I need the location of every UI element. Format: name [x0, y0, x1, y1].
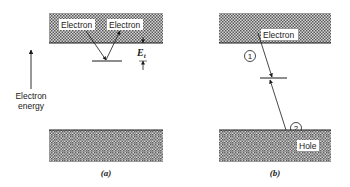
axis-label-line1: Electron [15, 91, 46, 101]
electron-label-a2: Electron [109, 20, 140, 30]
panel-b: Electron 1 2 Hole (b) [219, 13, 331, 178]
caption-b: (b) [270, 168, 281, 178]
hole-label: Hole [299, 141, 317, 151]
panel-a: Electron Electron Et (a) [49, 13, 163, 178]
axis-label-line2: energy [18, 101, 45, 111]
caption-a: (a) [101, 168, 112, 178]
step1-label: 1 [248, 52, 253, 61]
electron-energy-axis: Electron energy [15, 50, 46, 111]
et-symbol: Et [136, 47, 147, 60]
electron-label-b: Electron [263, 30, 294, 40]
band-diagram: Electron energy Electron Electron Et (a) [0, 0, 350, 187]
valence-band-a [49, 130, 163, 162]
electron-label-a1: Electron [61, 20, 92, 30]
